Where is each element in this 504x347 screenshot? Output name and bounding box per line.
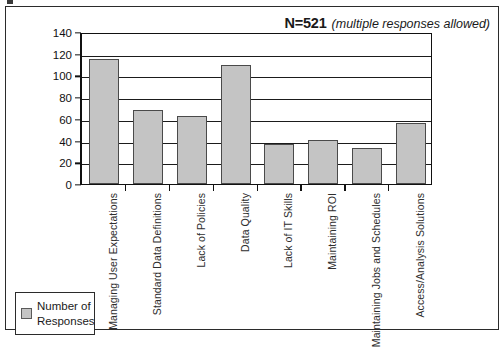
x-axis-tick xyxy=(213,185,214,191)
y-axis-tick-label: 0 xyxy=(32,179,72,191)
bar xyxy=(89,59,119,184)
x-axis-category-label: Maintaining ROI xyxy=(326,193,338,270)
y-axis-tick-label: 40 xyxy=(32,136,72,148)
x-axis-category-label: Access/Analysis Solutions xyxy=(414,193,426,317)
y-axis-tick xyxy=(75,32,81,33)
chart-legend: Number of Responses xyxy=(15,292,95,335)
y-axis-tick xyxy=(75,141,81,142)
legend-swatch-icon xyxy=(21,308,32,319)
y-axis-tick xyxy=(75,184,81,185)
y-axis-tick-label: 80 xyxy=(32,92,72,104)
x-axis-category-label: Data Quality xyxy=(239,193,251,252)
gridline xyxy=(82,99,431,100)
y-axis-tick xyxy=(75,97,81,98)
x-axis-tick xyxy=(169,185,170,191)
bar xyxy=(396,123,426,184)
y-axis-tick-label: 140 xyxy=(32,27,72,39)
x-axis-tick xyxy=(300,185,301,191)
x-axis-tick xyxy=(125,185,126,191)
plot-area xyxy=(81,33,432,185)
bar xyxy=(133,110,163,184)
x-axis-tick xyxy=(388,185,389,191)
gridline xyxy=(82,56,431,57)
legend-label: Number of Responses xyxy=(37,299,95,328)
x-axis-tick xyxy=(257,185,258,191)
sample-size-annotation: N=521(multiple responses allowed) xyxy=(284,14,490,32)
y-axis-tick-label: 60 xyxy=(32,114,72,126)
bar xyxy=(352,148,382,184)
y-axis-tick-label: 120 xyxy=(32,49,72,61)
bar xyxy=(264,144,294,184)
y-axis-tick xyxy=(75,119,81,120)
bar xyxy=(177,116,207,184)
x-axis-category-label: Lack of Policies xyxy=(195,193,207,268)
y-axis-tick xyxy=(75,163,81,164)
gridline xyxy=(82,77,431,78)
sample-size-value: N=521 xyxy=(284,15,326,31)
y-axis-tick xyxy=(75,54,81,55)
x-axis-category-label: Maintaining Jobs and Schedules xyxy=(370,193,382,347)
x-axis-category-label: Standard Data Definitions xyxy=(151,193,163,315)
x-axis-tick xyxy=(344,185,345,191)
x-axis-category-label: Lack of IT Skills xyxy=(282,193,294,268)
bar xyxy=(221,65,251,184)
scan-artifact xyxy=(7,0,13,4)
y-axis-tick-label: 20 xyxy=(32,157,72,169)
y-axis-tick xyxy=(75,76,81,77)
y-axis-tick-label: 100 xyxy=(32,70,72,82)
bar xyxy=(308,140,338,185)
x-axis-category-label: Managing User Expectations xyxy=(107,193,119,330)
sample-size-qualifier: (multiple responses allowed) xyxy=(332,17,490,31)
